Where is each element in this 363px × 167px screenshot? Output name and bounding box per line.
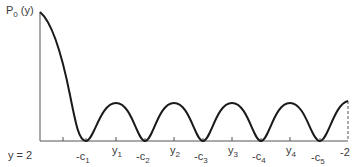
minimum-label-c4: -c4 (252, 151, 266, 166)
density-curve (40, 12, 348, 141)
y-axis-label: P0 (y) (6, 5, 34, 17)
maximum-label-y4: y4 (286, 145, 296, 160)
density-plot (0, 0, 363, 167)
x-axis-ticks (63, 137, 320, 141)
minimum-label-c3: -c3 (194, 151, 208, 166)
maximum-label-y2: y2 (170, 145, 180, 160)
x-right-label: -2 (340, 147, 350, 158)
minimum-label-c2: -c2 (136, 151, 150, 166)
maximum-label-y1: y1 (112, 145, 122, 160)
maximum-label-y3: y3 (228, 145, 238, 160)
minimum-label-c1: -c1 (76, 151, 90, 166)
minimum-label-c5: -c5 (311, 152, 325, 167)
x-left-label: y = 2 (8, 150, 32, 161)
